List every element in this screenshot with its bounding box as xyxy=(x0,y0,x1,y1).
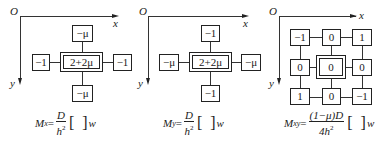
stencil-cell-0-0: −1 xyxy=(290,29,310,46)
formula-denominator: h2 xyxy=(184,122,193,137)
stencil-cell-0-1: 0 xyxy=(322,29,341,46)
origin-label: O xyxy=(10,6,18,17)
stencil-cell-2-1: 0 xyxy=(322,88,341,105)
stencil-cell-0-2: 1 xyxy=(352,29,372,46)
x-axis xyxy=(148,16,242,17)
formula-numerator: (1−μ)D xyxy=(309,110,345,122)
y-axis-arrow-icon xyxy=(277,78,281,85)
stencil-left: −1 xyxy=(32,54,50,71)
stencil-bottom: −1 xyxy=(201,85,220,102)
stencil-left: −μ xyxy=(159,54,179,71)
formula-rhs: w xyxy=(217,117,224,129)
x-axis xyxy=(279,16,356,17)
x-axis-label: x xyxy=(113,18,118,29)
x-axis xyxy=(20,16,112,17)
formula-denominator: h2 xyxy=(56,122,65,137)
x-axis-arrow-icon xyxy=(350,14,357,18)
stencil-cell-1-0: 0 xyxy=(290,59,310,76)
connector xyxy=(82,42,83,52)
origin-label: O xyxy=(269,6,277,17)
y-axis-label: y xyxy=(10,78,15,89)
y-axis-label: y xyxy=(269,78,274,89)
formula-rhs: w xyxy=(89,117,96,129)
connector xyxy=(50,62,60,63)
formula-rhs: w xyxy=(367,117,374,129)
stencil-center: 2+2μ xyxy=(63,55,100,69)
connector xyxy=(103,62,113,63)
formula-numerator: D xyxy=(56,110,66,122)
stencil-bottom: −μ xyxy=(72,85,93,102)
bracket-left: [ xyxy=(69,114,74,132)
bracket-right: ] xyxy=(82,114,87,132)
bracket-right: ] xyxy=(210,114,215,132)
stencil-cell-2-0: 1 xyxy=(290,88,310,105)
formula-lhs: M xyxy=(35,117,44,129)
stencil-top: −1 xyxy=(201,25,220,42)
formula-fraction: (1−μ)D 4h2 xyxy=(309,110,345,137)
y-axis xyxy=(20,16,21,78)
stencil-cell-1-1: 0 xyxy=(319,58,343,76)
y-axis-arrow-icon xyxy=(146,78,150,85)
formula-my: My = D h2 [] w xyxy=(163,110,224,137)
formula-lhs: M xyxy=(163,117,172,129)
bracket-right: ] xyxy=(361,114,366,132)
bracket-left: [ xyxy=(197,114,202,132)
formula-lhs: M xyxy=(284,117,293,129)
connector xyxy=(210,71,211,85)
y-axis-arrow-icon xyxy=(18,78,22,85)
formula-eq: = xyxy=(48,117,54,129)
origin-label: O xyxy=(139,6,147,17)
stencil-cell-1-2: 0 xyxy=(352,59,372,76)
formula-mx: Mx = D h2 [] w xyxy=(35,110,96,137)
formula-eq: = xyxy=(300,117,306,129)
stencil-right: −μ xyxy=(241,54,261,71)
formula-fraction: D h2 xyxy=(56,110,66,137)
y-axis xyxy=(279,16,280,78)
stencil-top: −μ xyxy=(72,25,93,42)
bracket-left: [ xyxy=(347,114,352,132)
formula-eq: = xyxy=(176,117,182,129)
connector xyxy=(82,71,83,85)
x-axis-label: x xyxy=(243,18,248,29)
formula-lhs-sub: xy xyxy=(293,119,300,128)
stencil-cell-2-2: −1 xyxy=(352,88,372,105)
y-axis xyxy=(148,16,149,78)
stencil-center: 2+2μ xyxy=(192,55,229,69)
formula-fraction: D h2 xyxy=(184,110,194,137)
formula-denominator: 4h2 xyxy=(319,122,334,137)
formula-numerator: D xyxy=(184,110,194,122)
x-axis-label: x xyxy=(359,10,364,21)
connector xyxy=(179,62,189,63)
formula-mxy: Mxy = (1−μ)D 4h2 [] w xyxy=(284,110,374,137)
connector xyxy=(210,42,211,52)
stencil-right: −1 xyxy=(113,54,132,71)
y-axis-label: y xyxy=(138,78,143,89)
